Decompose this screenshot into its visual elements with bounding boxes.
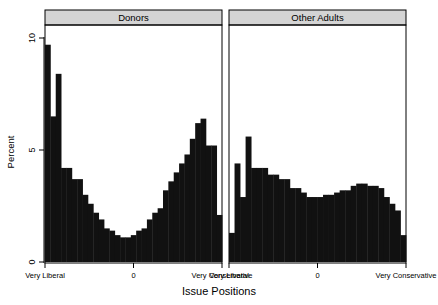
histogram-bar — [104, 228, 110, 262]
histogram-bar — [99, 219, 105, 262]
histogram-bar — [147, 219, 153, 262]
histogram-bar — [152, 213, 158, 262]
histogram-bar — [284, 179, 290, 262]
panel-title-other-adults: Other Adults — [291, 12, 344, 23]
histogram-bar — [190, 139, 196, 262]
histogram-bar — [334, 193, 340, 262]
chart-figure: Percent 0510 Donors Very Liberal0Very Co… — [0, 0, 438, 305]
histogram-bar — [384, 197, 390, 262]
histogram-bar — [395, 210, 401, 262]
histogram-bar — [389, 204, 395, 262]
histogram-bar — [72, 179, 78, 262]
histogram-bar — [235, 163, 241, 262]
panel-title-donors: Donors — [118, 12, 149, 23]
histogram-bar — [66, 168, 72, 262]
histogram-bar — [306, 197, 312, 262]
y-tick-label: 5 — [27, 147, 37, 152]
histogram-bar — [251, 168, 257, 262]
histogram-bar — [77, 179, 83, 262]
histogram-bar — [312, 197, 318, 262]
histogram-bar — [217, 215, 223, 262]
histogram-bar — [50, 116, 56, 262]
histogram-bar — [378, 188, 384, 262]
x-axis-title: Issue Positions — [182, 285, 256, 297]
histogram-bar — [268, 175, 274, 262]
x-tick-label: Very Liberal — [209, 271, 249, 280]
histogram-bar — [83, 195, 89, 262]
histogram-bar — [318, 197, 324, 262]
histogram-bar — [229, 233, 235, 262]
histogram-bar — [195, 123, 201, 262]
histogram-bar — [301, 193, 307, 262]
histogram-bar — [345, 190, 351, 262]
histogram-bar — [279, 179, 285, 262]
histogram-bar — [142, 228, 148, 262]
histogram-bar — [351, 186, 357, 262]
histogram-bar — [290, 188, 296, 262]
histogram-bar — [163, 190, 169, 262]
histogram-bar — [45, 45, 51, 262]
histogram-bar — [56, 74, 62, 262]
histogram-bar — [88, 204, 94, 262]
histogram-bar — [295, 188, 301, 262]
y-axis-title: Percent — [5, 135, 16, 168]
histogram-bar — [273, 175, 279, 262]
histogram-bar — [120, 237, 126, 262]
histogram-bar — [340, 190, 346, 262]
histogram-bar — [362, 184, 368, 262]
x-tick-label: 0 — [131, 271, 135, 280]
y-tick-label: 10 — [27, 33, 37, 43]
y-axis-title-text: Percent — [5, 135, 16, 168]
histogram-bar — [179, 163, 185, 262]
histogram-bar — [201, 119, 207, 262]
histogram-bar — [168, 181, 174, 262]
histogram-bar — [257, 168, 263, 262]
histogram-bar — [356, 184, 362, 262]
histogram-bar — [373, 186, 379, 262]
histogram-bar — [93, 213, 99, 262]
x-tick-label: Very Liberal — [25, 271, 65, 280]
histogram-bar — [115, 235, 121, 262]
histogram-bar — [367, 186, 373, 262]
faceted-histogram-svg: Percent 0510 Donors Very Liberal0Very Co… — [0, 0, 438, 305]
histogram-bar — [125, 237, 131, 262]
x-tick-label: 0 — [315, 271, 319, 280]
histogram-bar — [329, 195, 335, 262]
histogram-bar — [158, 208, 164, 262]
histogram-bar — [323, 195, 329, 262]
histogram-bar — [174, 172, 180, 262]
histogram-bar — [131, 235, 137, 262]
histogram-bar — [246, 137, 252, 262]
histogram-bar — [184, 154, 190, 262]
histogram-bar — [136, 231, 142, 262]
histogram-bar — [61, 168, 67, 262]
histogram-bar — [206, 146, 212, 262]
x-tick-label: Very Conservative — [376, 271, 437, 280]
histogram-bar — [400, 235, 406, 262]
histogram-bar — [109, 231, 115, 262]
histogram-bar — [240, 197, 246, 262]
histogram-bar — [262, 168, 268, 262]
y-tick-label: 0 — [27, 259, 37, 264]
histogram-bar — [211, 146, 217, 262]
